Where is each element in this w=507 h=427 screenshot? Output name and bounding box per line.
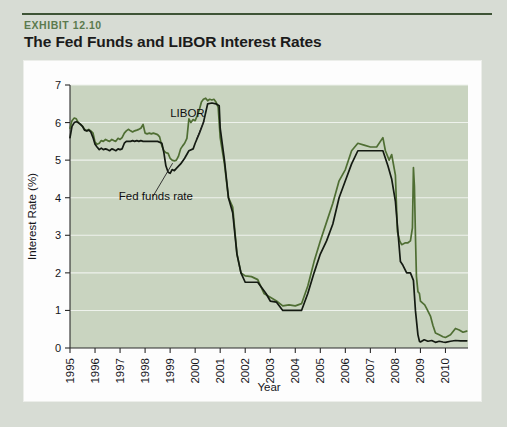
y-axis-ticks: 01234567: [55, 79, 70, 354]
page-title: The Fed Funds and LIBOR Interest Rates: [24, 33, 322, 51]
svg-text:0: 0: [55, 342, 61, 354]
svg-text:1999: 1999: [164, 358, 176, 384]
svg-text:2001: 2001: [214, 358, 226, 384]
annotation-fed-funds-rate: Fed funds rate: [119, 190, 193, 202]
interest-rate-line-chart: 01234567 1995199619971998199920002001200…: [24, 61, 481, 401]
svg-text:7: 7: [55, 79, 61, 91]
top-divider-rule: [22, 13, 492, 15]
x-axis-title: Year: [257, 381, 280, 393]
plot-background: [70, 85, 468, 348]
svg-text:2010: 2010: [439, 358, 451, 384]
svg-text:1: 1: [55, 304, 61, 316]
chart-card: 01234567 1995199619971998199920002001200…: [24, 61, 481, 401]
chart-plot-wrapper: 01234567 1995199619971998199920002001200…: [24, 61, 481, 401]
svg-text:2009: 2009: [414, 358, 426, 384]
svg-text:2000: 2000: [189, 358, 201, 384]
svg-text:3: 3: [55, 229, 61, 241]
annotation-libor: LIBOR: [170, 107, 205, 119]
svg-text:1997: 1997: [114, 358, 126, 384]
y-axis-title: Interest Rate (%): [26, 173, 38, 260]
svg-text:2006: 2006: [339, 358, 351, 384]
svg-text:2003: 2003: [264, 358, 276, 384]
svg-text:1995: 1995: [64, 358, 76, 384]
svg-text:1998: 1998: [139, 358, 151, 384]
exhibit-number-label: EXHIBIT 12.10: [24, 19, 102, 31]
svg-text:6: 6: [55, 117, 61, 129]
svg-text:5: 5: [55, 154, 61, 166]
exhibit-figure: EXHIBIT 12.10 The Fed Funds and LIBOR In…: [0, 0, 507, 427]
svg-text:2007: 2007: [364, 358, 376, 384]
svg-text:1996: 1996: [89, 358, 101, 384]
x-axis-ticks: 1995199619971998199920002001200220032004…: [64, 348, 451, 384]
svg-text:2002: 2002: [239, 358, 251, 384]
svg-text:4: 4: [55, 192, 61, 204]
svg-text:2004: 2004: [289, 357, 301, 383]
svg-text:2: 2: [55, 267, 61, 279]
svg-text:2005: 2005: [314, 358, 326, 384]
svg-text:2008: 2008: [389, 358, 401, 384]
